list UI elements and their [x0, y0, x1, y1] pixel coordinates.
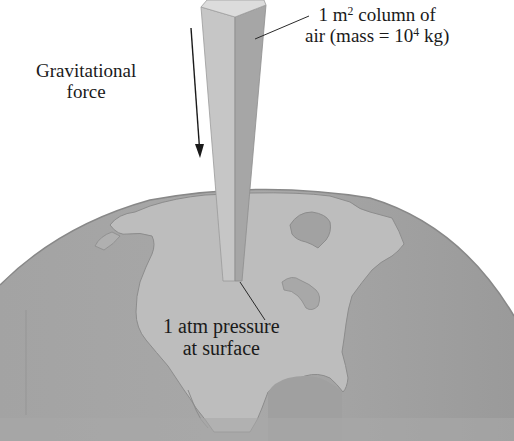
- gravity-label-line1: Gravitational: [36, 60, 136, 81]
- gravity-arrow-icon: [191, 28, 204, 158]
- column-label-line2: air (mass = 104 kg): [305, 25, 449, 46]
- column-label-line1-suffix: column of: [353, 4, 435, 25]
- column-label-line1-prefix: 1 m: [319, 4, 348, 25]
- column-label: 1 m2 column of air (mass = 104 kg): [305, 4, 449, 47]
- surface-label-line2: at surface: [163, 337, 280, 359]
- diagram-canvas: 1 m2 column of air (mass = 104 kg) Gravi…: [0, 0, 514, 441]
- gravity-label: Gravitational force: [36, 60, 136, 103]
- surface-pressure-label: 1 atm pressure at surface: [163, 315, 280, 360]
- surface-label-line1: 1 atm pressure: [163, 315, 280, 337]
- bottom-band: [0, 418, 514, 441]
- gravity-label-line2: force: [36, 81, 136, 102]
- column-label-line1: 1 m2 column of: [305, 4, 449, 25]
- column-label-line2-suffix: kg): [419, 25, 449, 46]
- globe: [0, 170, 514, 441]
- column-label-line2-prefix: air (mass = 10: [305, 25, 413, 46]
